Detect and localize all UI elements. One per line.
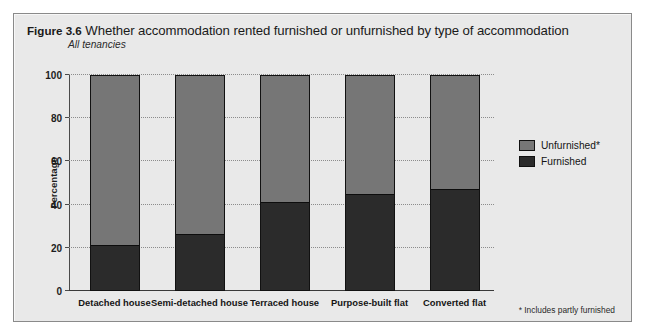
figure-subtitle: All tenancies: [68, 39, 617, 50]
x-axis-category-label: Converted flat: [401, 298, 509, 309]
legend-unfurnished[interactable]: Unfurnished*: [519, 137, 600, 153]
figure-panel: Figure 3.6 Whether accommodation rented …: [13, 13, 632, 322]
bar-stack[interactable]: [260, 75, 310, 291]
bar-segment-unfurnished[interactable]: [346, 76, 394, 194]
tickmark-40: [65, 204, 69, 205]
bar-stack[interactable]: [175, 75, 225, 291]
legend-swatch-icon: [519, 156, 535, 167]
bar-segment-furnished[interactable]: [346, 194, 394, 290]
tickmark-20: [65, 247, 69, 248]
bar-group[interactable]: Purpose-built flat: [345, 75, 395, 291]
bar-group[interactable]: Terraced house: [260, 75, 310, 291]
legend-furnished[interactable]: Furnished: [519, 153, 600, 169]
tickmark-0: [65, 290, 69, 291]
tickmark-60: [65, 160, 69, 161]
bar-segment-furnished[interactable]: [91, 245, 139, 290]
tickmark-80: [65, 117, 69, 118]
y-tick-label: 80: [51, 113, 62, 124]
y-tick-label: 40: [51, 199, 62, 210]
bar-segment-unfurnished[interactable]: [176, 76, 224, 234]
bar-segment-furnished[interactable]: [261, 202, 309, 290]
tickmark-100: [65, 74, 69, 75]
bar-stack[interactable]: [90, 75, 140, 291]
y-tick-label: 0: [56, 286, 62, 297]
page-title: Whether accommodation rented furnished o…: [85, 23, 568, 38]
bar-segment-unfurnished[interactable]: [431, 76, 479, 189]
plot-area: Percentage 020406080100 Detached houseSe…: [69, 75, 494, 291]
y-axis-line: [69, 75, 70, 291]
bar-segment-furnished[interactable]: [176, 234, 224, 290]
legend: Unfurnished*Furnished: [519, 137, 600, 169]
bar-stack[interactable]: [430, 75, 480, 291]
bar-group[interactable]: Converted flat: [430, 75, 480, 291]
figure-number: Figure 3.6: [27, 24, 82, 37]
title-block: Figure 3.6 Whether accommodation rented …: [27, 23, 617, 50]
y-tick-label: 20: [51, 242, 62, 253]
bar-group[interactable]: Semi-detached house: [175, 75, 225, 291]
y-tick-label: 100: [45, 70, 62, 81]
bar-group[interactable]: Detached house: [90, 75, 140, 291]
legend-swatch-icon: [519, 140, 535, 151]
bar-segment-unfurnished[interactable]: [91, 76, 139, 245]
bar-segment-furnished[interactable]: [431, 189, 479, 290]
bar-stack[interactable]: [345, 75, 395, 291]
legend-label: Unfurnished*: [541, 140, 600, 151]
legend-label: Furnished: [541, 156, 586, 167]
bar-segment-unfurnished[interactable]: [261, 76, 309, 202]
y-tick-label: 60: [51, 156, 62, 167]
figure-title-line: Figure 3.6 Whether accommodation rented …: [27, 23, 617, 38]
footnote: * Includes partly furnished: [519, 305, 615, 315]
